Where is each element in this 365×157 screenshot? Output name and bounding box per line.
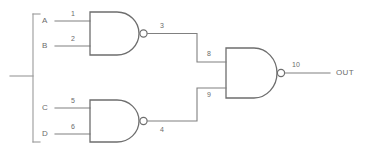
wire-number-2: 2 xyxy=(71,35,75,42)
gate-1-nand xyxy=(90,12,147,55)
wire-gate1-out-to-gate3 xyxy=(148,34,227,63)
wire-number-8: 8 xyxy=(207,50,211,57)
gate-3-body xyxy=(226,48,277,98)
gate-3-inversion-bubble xyxy=(277,69,284,76)
gate1-input-wires xyxy=(55,21,90,46)
circuit-schematic xyxy=(0,0,365,157)
input-label-d: D xyxy=(42,130,48,138)
input-label-a: A xyxy=(42,17,48,25)
wire-number-6: 6 xyxy=(71,123,75,130)
gate-2-inversion-bubble xyxy=(140,117,147,124)
output-label: OUT xyxy=(336,69,354,77)
wire-gate2-out-to-gate3 xyxy=(148,88,227,121)
gate-2-nand xyxy=(90,100,147,142)
input-label-c: C xyxy=(42,104,48,112)
input-label-b: B xyxy=(42,42,48,50)
input-bus-bracket xyxy=(10,14,40,142)
gate-1-inversion-bubble xyxy=(140,30,147,37)
gate-3-nand xyxy=(226,48,285,98)
circuit-diagram: A B C D 1 2 3 4 5 6 8 9 10 OUT xyxy=(0,0,365,157)
wire-number-5: 5 xyxy=(71,97,75,104)
gate-2-body xyxy=(90,100,139,142)
wire-number-1: 1 xyxy=(71,10,75,17)
gate-1-body xyxy=(90,12,139,55)
wire-number-3: 3 xyxy=(160,22,164,29)
wire-number-4: 4 xyxy=(160,126,164,133)
wire-number-9: 9 xyxy=(207,91,211,98)
wire-number-10: 10 xyxy=(292,61,300,68)
gate2-input-wires xyxy=(55,108,90,134)
